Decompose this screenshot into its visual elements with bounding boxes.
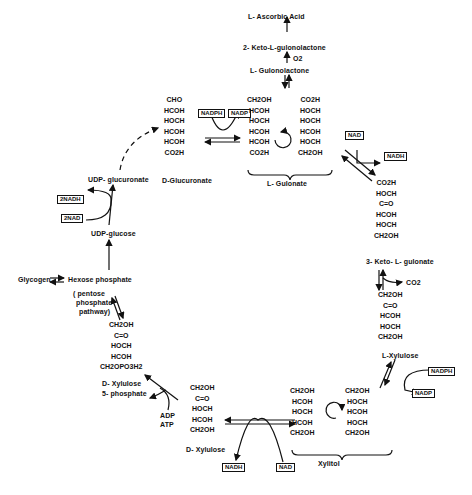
nadph-box-top: NADPH (198, 109, 225, 118)
keto-gulonate-label: 3- Keto- L- gulonate (366, 258, 434, 266)
udp-glucose-label: UDP-glucose (91, 230, 136, 238)
d-xylulose-5p-structure: CH2OH C=O HOCH HCOH CH2OPO3H2 (100, 320, 142, 373)
atp-label: ATP (160, 421, 174, 429)
nadh-box-bottom: NADH (222, 463, 245, 472)
adp-label: ADP (160, 412, 175, 420)
co2-label: CO2 (406, 279, 421, 287)
gulonate-structure-b: CO2H HOCH HOCH HCOH HOCH CH2OH (298, 95, 323, 158)
gulonate-structure-a: CH2OH HCOH HOCH HCOH HCOH CO2H (247, 95, 272, 158)
d-xylulose-structure: CH2OH C=O HOCH HCOH CH2OH (190, 383, 215, 436)
l-xylulose-structure: CH2OH C=O HCOH HOCH CH2OH (378, 290, 403, 343)
keto-gulonolactone-label: 2- Keto-L-gulonolactone (243, 44, 326, 52)
glucuronate-label: D-Glucuronate (162, 177, 212, 185)
d-xylulose-5p-label-2: 5- phosphate (102, 390, 147, 398)
pentose-label-3: pathway) (79, 308, 110, 316)
udp-glucuronate-label: UDP- glucuronate (88, 176, 149, 184)
o2-label: O2 (293, 55, 303, 63)
nad-box-right: NAD (345, 131, 364, 140)
keto-gulonate-structure: CO2H HOCH C=O HCOH HOCH CH2OH (374, 178, 399, 241)
gulonolactone-label: L- Gulonolactone (250, 67, 309, 75)
glycogen-label: Glycogen (18, 276, 51, 284)
xylitol-structure-a: CH2OH HCOH HOCH HCOH CH2OH (290, 386, 315, 439)
two-nad-box: 2NAD (61, 214, 83, 223)
nadh-box-right: NADH (384, 152, 407, 161)
d-xylulose-5p-label-1: D- Xylulose (102, 380, 141, 388)
two-nadh-box: 2NADH (57, 195, 84, 204)
gulonate-label: L- Gulonate (267, 180, 307, 188)
xylitol-structure-b: CH2OH HOCH HCOH HOCH CH2OH (345, 386, 370, 439)
nad-box-bottom: NAD (276, 463, 295, 472)
pentose-label-1: ( pentose (73, 290, 105, 298)
l-xylulose-label: L-Xylulose (382, 352, 418, 360)
ascorbic-acid-label: L- Ascorbic Acid (248, 13, 305, 21)
d-xylulose-label: D- Xylulose (186, 446, 225, 454)
nadp-box-lower: NADP (412, 389, 435, 398)
pathway-arrows (0, 0, 472, 495)
pentose-label-2: phosphate (76, 299, 112, 307)
xylitol-label: Xylitol (318, 460, 340, 468)
hexose-phosphate-label: Hexose phosphate (68, 276, 132, 284)
glucuronate-structure: CHO HCOH HOCH HCOH HCOH CO2H (164, 95, 185, 158)
nadph-box-lower: NADPH (428, 367, 455, 376)
